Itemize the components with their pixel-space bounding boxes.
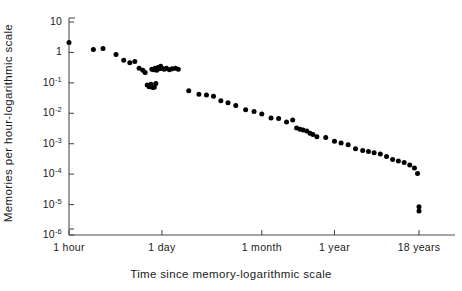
data-point-markers	[67, 40, 422, 213]
axis-lines	[69, 18, 455, 235]
data-point	[346, 142, 351, 147]
data-point	[332, 139, 337, 144]
data-point	[186, 88, 191, 93]
data-point	[176, 67, 181, 72]
data-point	[269, 116, 274, 121]
data-point	[114, 52, 119, 57]
data-point	[366, 149, 371, 154]
data-point	[284, 119, 289, 124]
data-point	[243, 107, 248, 112]
data-point	[396, 159, 401, 164]
data-point	[390, 157, 395, 162]
data-point	[314, 134, 319, 139]
data-point	[233, 103, 238, 108]
data-point	[323, 135, 328, 140]
data-point	[91, 47, 96, 52]
data-point	[360, 148, 365, 153]
data-point	[211, 94, 216, 99]
data-point	[402, 160, 407, 165]
data-point	[252, 109, 257, 114]
data-point	[143, 70, 148, 75]
data-point	[226, 100, 231, 105]
data-point	[417, 208, 422, 213]
data-point	[384, 154, 389, 159]
data-point	[372, 150, 377, 155]
data-point	[153, 81, 158, 86]
data-point	[101, 46, 106, 51]
data-point	[121, 58, 126, 63]
data-point	[132, 59, 137, 64]
data-point	[353, 146, 358, 151]
data-point	[412, 165, 417, 170]
data-point	[127, 60, 132, 65]
data-point	[378, 151, 383, 156]
data-point	[276, 116, 281, 121]
plot-area	[0, 0, 462, 291]
data-point	[67, 40, 72, 45]
memory-decay-scatter-figure: Memories per hour-logarithmic scale 1011…	[0, 0, 462, 291]
data-point	[407, 162, 412, 167]
data-point	[290, 118, 295, 123]
data-point	[339, 141, 344, 146]
tick-marks	[69, 22, 419, 235]
data-point	[218, 98, 223, 103]
data-point	[415, 171, 420, 176]
data-point	[259, 111, 264, 116]
data-point	[196, 92, 201, 97]
data-point	[204, 92, 209, 97]
